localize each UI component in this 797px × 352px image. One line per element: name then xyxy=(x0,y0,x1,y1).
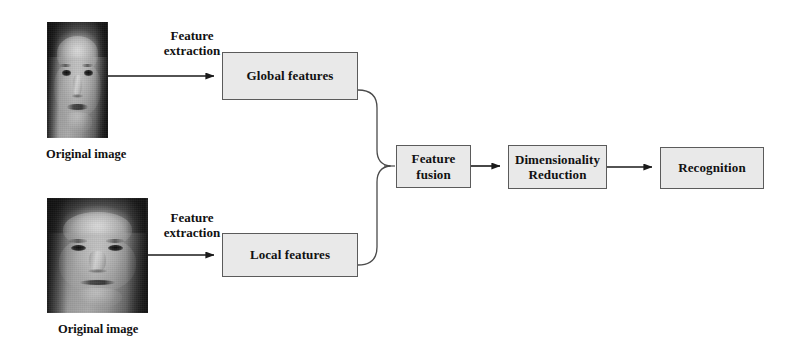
caption-original-image-top: Original image xyxy=(46,147,126,162)
node-label: Global features xyxy=(243,68,338,83)
node-label: Local features xyxy=(246,247,334,262)
node-feature-fusion: Feature fusion xyxy=(396,145,471,188)
edge-label-line1: Feature xyxy=(149,210,235,225)
node-label: Recognition xyxy=(674,160,750,175)
node-label-line1: Feature xyxy=(412,151,456,166)
node-label-line2: fusion xyxy=(416,167,451,182)
original-image-top xyxy=(47,22,108,138)
node-label: Dimensionality Reduction xyxy=(511,152,604,183)
photo-film-grain xyxy=(47,22,108,138)
caption-original-image-bottom: Original image xyxy=(58,322,138,337)
photo-film-grain xyxy=(47,198,148,313)
edge-label-line1: Feature xyxy=(149,28,235,43)
node-dimensionality-reduction: Dimensionality Reduction xyxy=(508,145,607,189)
node-local-features: Local features xyxy=(222,233,358,277)
node-recognition: Recognition xyxy=(660,147,764,189)
brace-local-branch xyxy=(358,166,390,265)
node-global-features: Global features xyxy=(222,52,358,100)
node-label-line1: Dimensionality xyxy=(515,152,600,167)
original-image-bottom xyxy=(47,198,148,313)
node-label: Feature fusion xyxy=(408,151,460,182)
figure-canvas: Original image Original image Feature ex… xyxy=(0,0,797,352)
brace-global-branch xyxy=(358,90,390,166)
node-label-line2: Reduction xyxy=(529,167,587,182)
